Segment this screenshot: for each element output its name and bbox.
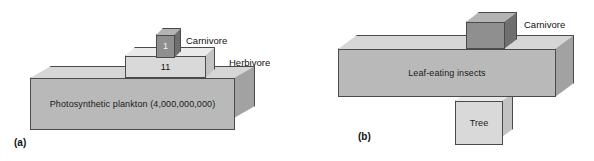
panel-a-carnivore-block: 1	[156, 28, 183, 58]
panel-b-tag: (b)	[358, 132, 371, 142]
panel-a-herbivore-value: 11	[161, 63, 170, 72]
panel-b-producer-label: Tree	[470, 119, 489, 128]
panel-b-herbivore-top-face	[338, 35, 574, 49]
panel-b: Tree Leaf-eating insects Carnivore (b)	[300, 0, 594, 161]
panel-a: Photosynthetic plankton (4,000,000,000) …	[0, 0, 300, 161]
panel-a-tag: (a)	[14, 138, 26, 148]
panel-b-producer-front-face: Tree	[455, 101, 503, 145]
panel-a-carnivore-callout: Carnivore	[186, 36, 227, 46]
panel-b-producer-block: Tree	[455, 93, 517, 145]
panel-b-carnivore-block	[466, 12, 520, 52]
panel-a-producer-front-face: Photosynthetic plankton (4,000,000,000)	[30, 78, 235, 130]
panel-a-producer-label: Photosynthetic plankton (4,000,000,000)	[50, 100, 216, 109]
panel-a-carnivore-value: 1	[163, 42, 168, 51]
biomass-pyramid-figure: Photosynthetic plankton (4,000,000,000) …	[0, 0, 594, 161]
panel-b-producer-side-face	[502, 93, 513, 145]
panel-b-herbivore-label: Leaf-eating insects	[408, 69, 485, 78]
panel-b-herbivore-front-face: Leaf-eating insects	[338, 49, 556, 97]
panel-a-carnivore-front-face: 1	[156, 35, 175, 58]
panel-b-carnivore-front-face	[466, 22, 505, 49]
panel-a-herbivore-front-face: 11	[125, 56, 206, 78]
panel-a-herbivore-callout: Herbivore	[229, 58, 270, 68]
panel-b-carnivore-callout: Carnivore	[524, 20, 565, 30]
